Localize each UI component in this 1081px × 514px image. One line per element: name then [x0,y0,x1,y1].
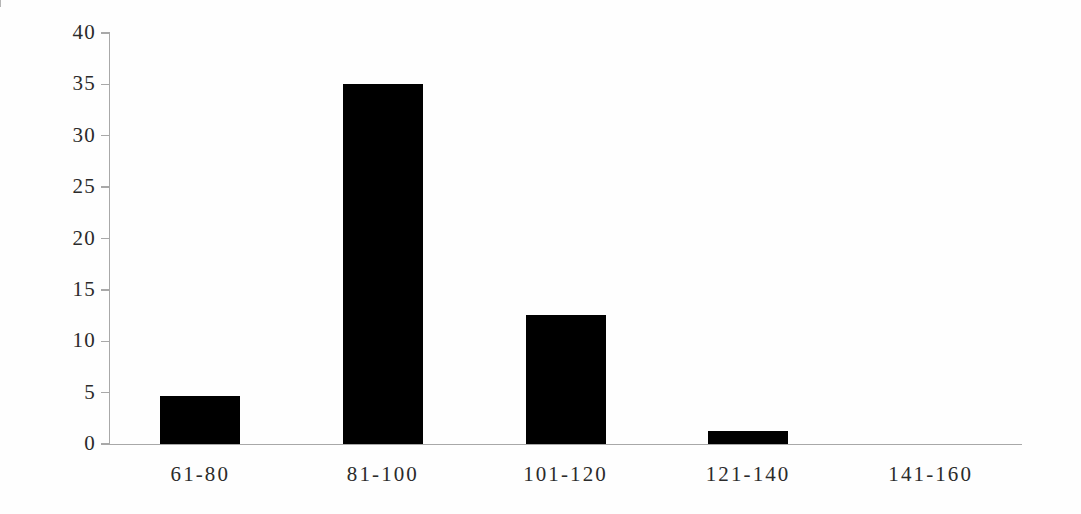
y-tick-mark [101,135,110,136]
y-tick-mark [101,443,110,444]
y-tick-mark [101,84,110,85]
histogram-chart: 0510152025303540 61-8081-100101-120121-1… [0,0,1081,514]
y-tick-label: 5 [34,382,96,403]
y-tick-label-wrap: 35 [26,73,96,94]
y-tick-label-wrap: 5 [26,382,96,403]
x-tick-label: 141-160 [888,462,973,486]
y-tick-label-wrap: 20 [26,228,96,249]
x-tick-label: 121-140 [706,462,791,486]
y-tick-label-wrap: 0 [26,433,96,454]
y-tick-label: 10 [34,330,96,351]
y-tick-label-wrap: 15 [26,279,96,300]
y-tick-label: 15 [34,279,96,300]
y-tick-label: 30 [34,125,96,146]
x-axis-end-tick [0,0,1,7]
y-tick-label: 20 [34,228,96,249]
y-tick-label-wrap: 30 [26,125,96,146]
y-tick-mark [101,392,110,393]
y-tick-label: 35 [34,73,96,94]
y-tick-label: 25 [34,176,96,197]
bar-101-120 [526,315,606,444]
y-tick-label: 0 [34,433,96,454]
y-tick-label-wrap: 40 [26,22,96,43]
bar-121-140 [708,431,788,444]
bar-81-100 [343,84,423,444]
y-tick-label-wrap: 10 [26,330,96,351]
y-tick-mark [101,238,110,239]
bar-61-80 [160,396,240,444]
y-tick-mark [101,289,110,290]
x-tick-label: 81-100 [347,462,419,486]
x-tick-label: 61-80 [171,462,231,486]
y-tick-mark [101,32,110,33]
y-tick-mark [101,186,110,187]
x-tick-label: 101-120 [523,462,608,486]
y-tick-label-wrap: 25 [26,176,96,197]
y-tick-label: 40 [34,22,96,43]
y-tick-mark [101,341,110,342]
